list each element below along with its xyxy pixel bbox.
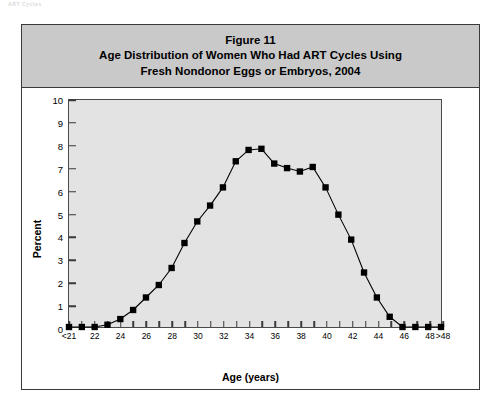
- y-tick-label: 7: [58, 163, 63, 174]
- y-tick-label: 5: [58, 209, 63, 220]
- x-tick-label: 42: [348, 331, 357, 341]
- series-data-point: [207, 202, 213, 208]
- x-tick-label: 44: [374, 331, 383, 341]
- figure-title-line-2: Age Distribution of Women Who Had ART Cy…: [99, 48, 402, 64]
- x-tick-label: 36: [271, 331, 280, 341]
- series-data-point: [335, 211, 341, 217]
- series-data-point: [130, 307, 136, 313]
- series-data-point: [194, 218, 200, 224]
- x-tick-label: 34: [245, 331, 254, 341]
- series-data-point: [297, 168, 303, 174]
- x-tick-label: 48: [425, 331, 434, 341]
- y-axis-title: Percent: [31, 219, 43, 258]
- series-line-path: [69, 149, 441, 327]
- y-tick-label: 3: [58, 255, 63, 266]
- plot-area: 012345678910 <21222426283032343638404244…: [68, 99, 442, 328]
- series-data-point: [181, 240, 187, 246]
- x-tick-label: <21: [62, 331, 76, 341]
- y-tick-label: 9: [58, 117, 63, 128]
- figure-frame: Figure 11 Age Distribution of Women Who …: [21, 24, 480, 390]
- y-tick-label: 4: [58, 232, 63, 243]
- y-tick-label: 10: [52, 95, 63, 106]
- x-tick-label: >48: [436, 331, 450, 341]
- x-tick-label: 46: [400, 331, 409, 341]
- series-data-point: [348, 236, 354, 242]
- figure-title-band: Figure 11 Age Distribution of Women Who …: [22, 25, 479, 88]
- page-header-fragment: ART Cycles: [8, 1, 42, 7]
- y-tick-label: 2: [58, 278, 63, 289]
- x-tick-label: 26: [142, 331, 151, 341]
- series-data-point: [143, 294, 149, 300]
- series-data-point: [374, 294, 380, 300]
- x-tick-label: 30: [193, 331, 202, 341]
- x-tick-label: 38: [296, 331, 305, 341]
- series-data-point: [310, 164, 316, 170]
- series-data-point: [425, 324, 431, 330]
- series-data-point: [66, 324, 72, 330]
- series-data-point: [168, 265, 174, 271]
- series-data-point: [91, 324, 97, 330]
- series-data-point: [258, 146, 264, 152]
- x-tick-label: 24: [116, 331, 125, 341]
- series-data-point: [361, 269, 367, 275]
- series-data-point: [438, 324, 444, 330]
- x-tick-label: 28: [167, 331, 176, 341]
- x-tick-label: 22: [90, 331, 99, 341]
- chart-canvas: Percent Age (years) 012345678910 <212224…: [22, 88, 479, 389]
- x-tick-label: 32: [219, 331, 228, 341]
- series-data-point: [322, 184, 328, 190]
- figure-title-line-1: Figure 11: [225, 33, 276, 49]
- series-data-point: [245, 147, 251, 153]
- series-data-point: [104, 322, 110, 328]
- x-tick-label: 40: [322, 331, 331, 341]
- x-axis-title: Age (years): [22, 371, 479, 383]
- series-data-point: [117, 316, 123, 322]
- y-tick-label: 1: [58, 301, 63, 312]
- series-data-point: [271, 160, 277, 166]
- series-data-point: [79, 324, 85, 330]
- series-data-point: [156, 282, 162, 288]
- y-tick-label: 6: [58, 186, 63, 197]
- series-plot: [69, 100, 441, 327]
- series-markers: [66, 146, 444, 331]
- series-data-point: [284, 165, 290, 171]
- series-data-point: [412, 324, 418, 330]
- series-data-point: [387, 314, 393, 320]
- y-tick-label: 8: [58, 140, 63, 151]
- series-data-point: [399, 324, 405, 330]
- series-data-point: [233, 158, 239, 164]
- series-data-point: [220, 184, 226, 190]
- figure-title-line-3: Fresh Nondonor Eggs or Embryos, 2004: [141, 64, 361, 80]
